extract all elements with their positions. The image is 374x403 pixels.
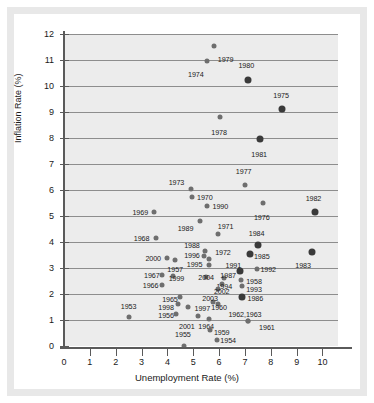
x-axis-tick-label: 7 (242, 357, 247, 367)
y-axis-tick (60, 60, 69, 61)
y-axis-tick (60, 86, 69, 87)
x-axis-tick-label: 10 (317, 357, 327, 367)
y-axis-title: Inflation Rate (%) (13, 73, 23, 143)
y-axis-tick (60, 268, 69, 269)
x-axis-tick-label: 2 (113, 357, 118, 367)
x-axis-tick (271, 347, 272, 356)
y-axis-tick-label: 12 (32, 29, 54, 39)
y-axis-tick-label: 5 (32, 211, 54, 221)
y-axis-tick (60, 164, 69, 165)
y-axis-tick-label: 0 (32, 341, 54, 351)
x-axis-tick (219, 347, 220, 356)
x-axis-tick-label: 4 (165, 357, 170, 367)
x-axis-tick-label: 5 (191, 357, 196, 367)
y-axis-tick-label: 7 (32, 159, 54, 169)
x-axis-line (60, 347, 352, 349)
y-axis-tick (60, 216, 69, 217)
y-axis-tick-label: 10 (32, 81, 54, 91)
y-axis-tick (60, 346, 69, 347)
y-axis-tick-label: 4 (32, 237, 54, 247)
x-axis-title: Unemployment Rate (%) (0, 372, 374, 383)
x-axis-tick (297, 347, 298, 356)
x-axis-tick (193, 347, 194, 356)
x-axis-tick-label: 1 (87, 357, 92, 367)
x-axis-tick (90, 347, 91, 356)
x-axis-tick-label: 0 (61, 357, 66, 367)
x-axis-tick (167, 347, 168, 356)
y-axis-tick (60, 190, 69, 191)
x-axis-tick (142, 347, 143, 356)
x-axis-tick (322, 347, 323, 356)
x-axis-tick (116, 347, 117, 356)
x-axis-tick-label: 3 (139, 357, 144, 367)
y-axis-tick (60, 34, 69, 35)
y-axis-tick-label: 3 (32, 263, 54, 273)
x-axis-tick-label: 9 (294, 357, 299, 367)
x-axis-tick (245, 347, 246, 356)
y-axis-tick (60, 294, 69, 295)
y-axis-tick (60, 242, 69, 243)
y-axis-tick-label: 2 (32, 289, 54, 299)
y-axis-tick-label: 11 (32, 55, 54, 65)
y-axis-tick (60, 320, 69, 321)
y-axis-tick (60, 138, 69, 139)
axis-layer: 0123456789101112012345678910 (0, 0, 374, 403)
y-axis-tick-label: 9 (32, 107, 54, 117)
scatter-plot-figure: 1979197419801975197819811977197319701976… (0, 0, 374, 403)
y-axis-tick-label: 1 (32, 315, 54, 325)
y-axis-tick (60, 112, 69, 113)
y-axis-tick-label: 6 (32, 185, 54, 195)
y-axis-tick-label: 8 (32, 133, 54, 143)
x-axis-tick-label: 6 (217, 357, 222, 367)
x-axis-tick-label: 8 (268, 357, 273, 367)
